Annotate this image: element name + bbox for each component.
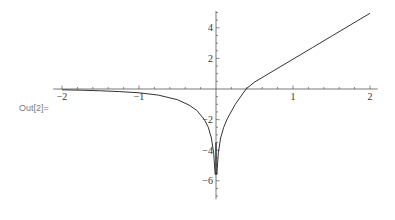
x-tick-label: −2 [57, 91, 68, 102]
y-tick-label: −6 [202, 175, 213, 186]
curve-left-branch [62, 90, 215, 175]
x-tick-label: 1 [291, 91, 296, 102]
y-tick-label: 2 [208, 53, 213, 64]
y-tick-label: −4 [202, 145, 213, 156]
function-plot: −2−11242−2−4−6 [0, 0, 395, 220]
x-tick-label: 2 [368, 91, 373, 102]
y-tick-label: 4 [208, 22, 213, 33]
